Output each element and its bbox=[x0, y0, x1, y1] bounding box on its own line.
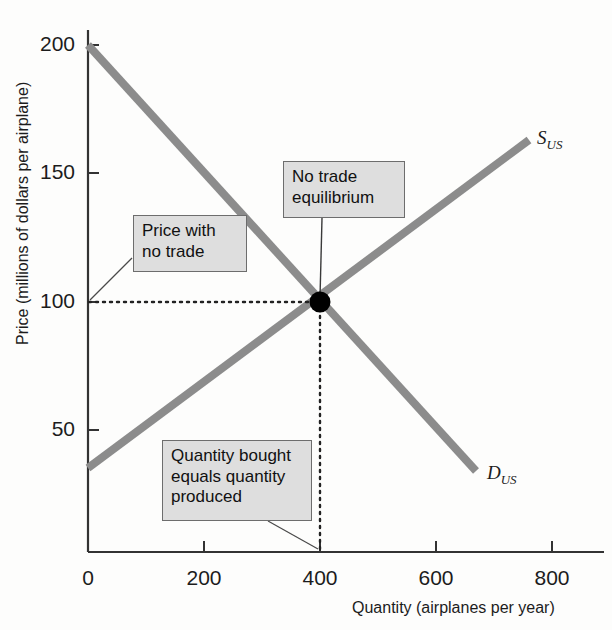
x-tick-label-200: 200 bbox=[174, 566, 234, 590]
leader-line-quantity-bought bbox=[268, 521, 318, 549]
equilibrium-point bbox=[310, 292, 331, 313]
y-tick-label-50: 50 bbox=[15, 417, 75, 441]
economics-chart-figure: 200 150 100 50 0 200 400 600 800 Price (… bbox=[0, 0, 612, 630]
callout-price-with-no-trade: Price with no trade bbox=[133, 215, 247, 272]
x-tick-label-800: 800 bbox=[522, 566, 582, 590]
x-tick-label-600: 600 bbox=[406, 566, 466, 590]
leader-line-no-trade-equilibrium bbox=[320, 218, 322, 298]
x-tick-label-400: 400 bbox=[290, 566, 350, 590]
supply-curve-label-sub: US bbox=[547, 137, 563, 152]
demand-curve-label-sub: US bbox=[501, 472, 517, 487]
supply-curve-label: SUS bbox=[537, 127, 562, 153]
x-tick-label-0: 0 bbox=[58, 566, 118, 590]
x-axis-title: Quantity (airplanes per year) bbox=[352, 599, 555, 617]
demand-curve-label: DUS bbox=[487, 462, 517, 488]
supply-curve-label-text: S bbox=[537, 127, 547, 148]
callout-quantity-bought-equals-produced: Quantity bought equals quantity produced bbox=[162, 440, 312, 521]
callout-no-trade-equilibrium: No trade equilibrium bbox=[283, 161, 405, 218]
y-tick-label-200: 200 bbox=[15, 32, 75, 56]
y-axis-title: Price (millions of dollars per airplane) bbox=[14, 82, 32, 345]
demand-curve-label-text: D bbox=[487, 462, 501, 483]
leader-line-price-no-trade bbox=[90, 258, 132, 300]
plot-area bbox=[0, 0, 612, 630]
